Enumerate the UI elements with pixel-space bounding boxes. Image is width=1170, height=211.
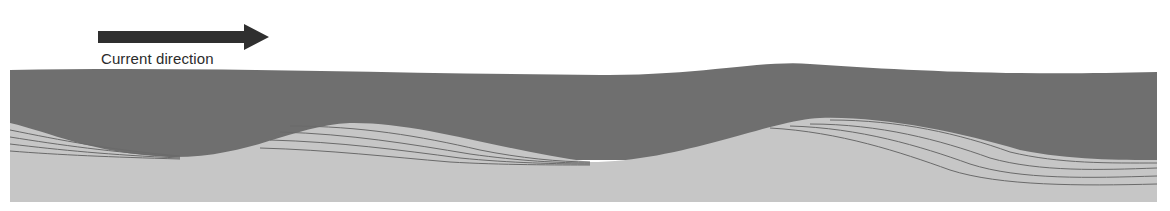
ripple-cross-section-diagram bbox=[0, 0, 1170, 211]
